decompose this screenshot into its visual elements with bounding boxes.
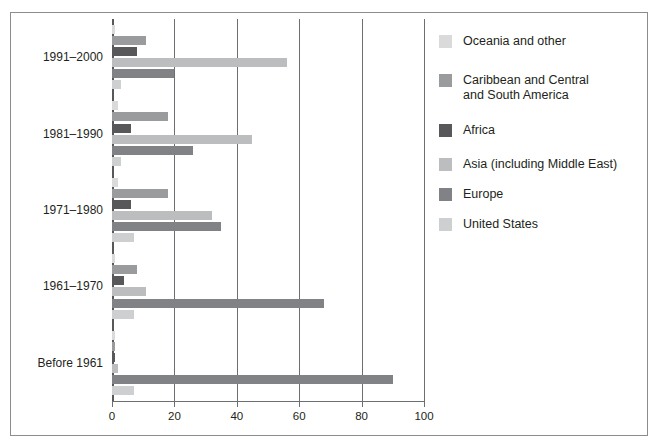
legend-swatch-icon — [439, 158, 452, 171]
bar — [112, 331, 115, 340]
bar — [112, 80, 121, 89]
gridline-100 — [424, 19, 425, 401]
x-tick-0 — [112, 401, 113, 407]
category-axis-labels: 1991–20001981–19901971–19801961–1970Befo… — [11, 19, 103, 401]
bar — [112, 265, 137, 274]
bar — [112, 287, 146, 296]
x-tick-20 — [174, 401, 175, 407]
gridline-80 — [362, 19, 363, 401]
x-axis-line — [112, 401, 424, 402]
bar — [112, 178, 118, 187]
bar — [112, 200, 131, 209]
legend-item[interactable]: United States — [439, 217, 538, 232]
bar — [112, 222, 221, 231]
legend-item[interactable]: Caribbean and Central and South America — [439, 73, 589, 102]
bar — [112, 112, 168, 121]
bar — [112, 276, 124, 285]
x-tick-100 — [424, 401, 425, 407]
legend-item[interactable]: Africa — [439, 123, 495, 138]
bar — [112, 146, 193, 155]
bar — [112, 353, 115, 362]
bar — [112, 375, 393, 384]
x-tick-label-100: 100 — [414, 410, 433, 422]
gridline-40 — [237, 19, 238, 401]
x-tick-label-60: 60 — [293, 410, 306, 422]
x-tick-label-80: 80 — [355, 410, 368, 422]
bar — [112, 310, 134, 319]
bar — [112, 47, 137, 56]
bar — [112, 58, 287, 67]
legend-swatch-icon — [439, 74, 452, 87]
legend-label: Africa — [463, 123, 495, 138]
x-tick-40 — [237, 401, 238, 407]
chart-figure: 1991–20001981–19901971–19801961–1970Befo… — [10, 12, 648, 436]
category-label: Before 1961 — [38, 356, 103, 370]
gridline-20 — [174, 19, 175, 401]
bar — [112, 25, 115, 34]
x-tick-60 — [299, 401, 300, 407]
legend-item[interactable]: Europe — [439, 187, 503, 202]
legend-label: Oceania and other — [463, 34, 566, 49]
category-label: 1961–1970 — [43, 279, 103, 293]
bar — [112, 124, 131, 133]
legend-label: United States — [463, 217, 538, 232]
legend-item[interactable]: Oceania and other — [439, 34, 566, 49]
bar — [112, 36, 146, 45]
bar — [112, 386, 134, 395]
gridline-60 — [299, 19, 300, 401]
category-label: 1971–1980 — [43, 203, 103, 217]
bar — [112, 157, 121, 166]
legend-label: Asia (including Middle East) — [463, 157, 617, 172]
bar — [112, 135, 252, 144]
category-label: 1991–2000 — [43, 50, 103, 64]
legend-swatch-icon — [439, 124, 452, 137]
category-label: 1981–1990 — [43, 127, 103, 141]
x-tick-80 — [362, 401, 363, 407]
bar — [112, 299, 324, 308]
x-tick-label-0: 0 — [109, 410, 115, 422]
legend-swatch-icon — [439, 35, 452, 48]
bar — [112, 233, 134, 242]
legend-swatch-icon — [439, 188, 452, 201]
bar — [112, 101, 118, 110]
legend-swatch-icon — [439, 218, 452, 231]
x-tick-label-20: 20 — [168, 410, 181, 422]
legend-label: Caribbean and Central and South America — [463, 73, 589, 102]
bar — [112, 254, 115, 263]
bar — [112, 342, 115, 351]
legend-label: Europe — [463, 187, 503, 202]
x-tick-label-40: 40 — [230, 410, 243, 422]
legend-item[interactable]: Asia (including Middle East) — [439, 157, 617, 172]
bar — [112, 211, 212, 220]
bar — [112, 69, 174, 78]
bar — [112, 189, 168, 198]
plot-area: 020406080100 — [112, 19, 424, 401]
bar — [112, 364, 118, 373]
